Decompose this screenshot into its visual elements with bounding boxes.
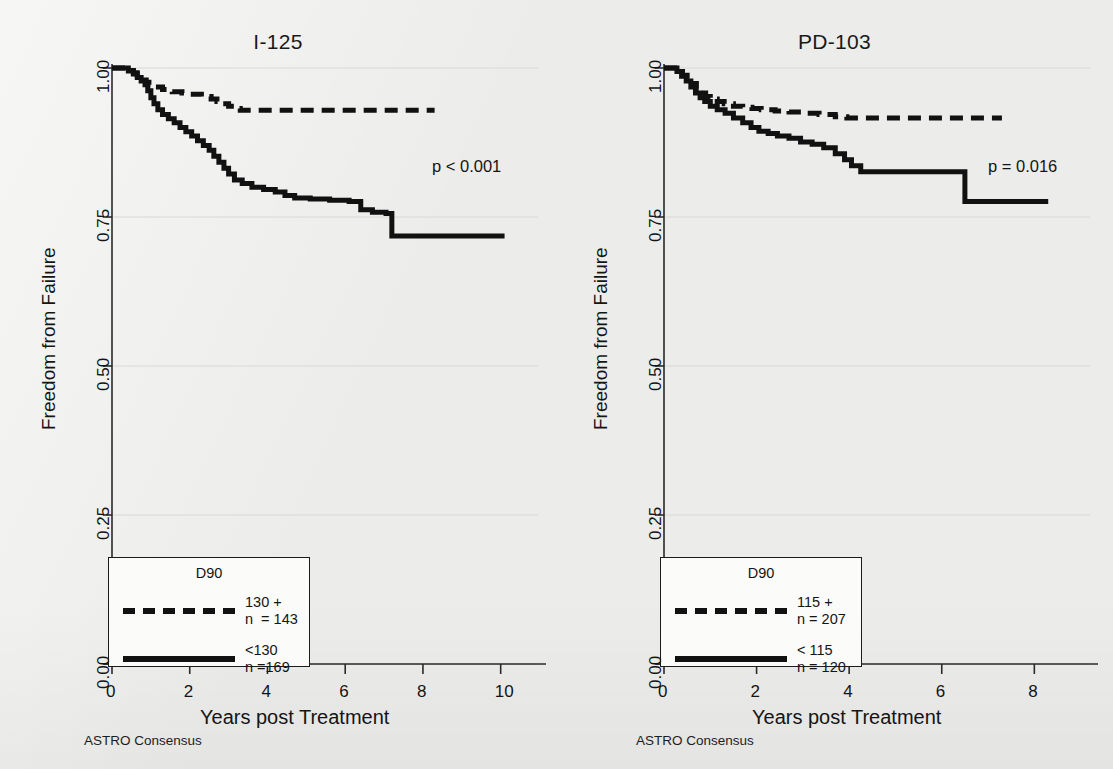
p-value-annotation-right: p = 0.016 — [988, 157, 1057, 176]
legend-swatch-solid-icon — [675, 656, 787, 662]
y-tick-label: 0.25 — [646, 507, 666, 540]
p-value-annotation-left: p < 0.001 — [432, 157, 501, 176]
legend-swatch-solid-icon — [123, 656, 235, 662]
legend-label-dashed-right: 115 + n = 207 — [797, 594, 846, 628]
legend-entry-dashed-left: 130 + n = 143 — [109, 592, 309, 636]
legend-label-solid-right: < 115 n = 120 — [797, 642, 846, 676]
y-axis-label-left: Freedom from Failure — [38, 247, 60, 430]
legend-entry-dashed-right: 115 + n = 207 — [661, 592, 861, 636]
y-tick-label: 0.50 — [646, 358, 666, 391]
footnote-right: ASTRO Consensus — [636, 733, 754, 748]
y-tick-label: 1.00 — [646, 60, 666, 93]
legend-entry-solid-left: <130 n =169 — [109, 640, 309, 684]
x-tick-label: 8 — [417, 682, 426, 702]
legend-label-dashed-left: 130 + n = 143 — [245, 594, 298, 628]
legend-title-left: D90 — [109, 565, 309, 581]
legend-swatch-dashed-icon — [675, 608, 787, 614]
y-tick-label: 0.50 — [94, 358, 114, 391]
curve-solid — [664, 68, 1048, 202]
legend-swatch-dashed-icon — [123, 608, 235, 614]
legend-left: D90 130 + n = 143 <130 n =169 — [108, 557, 310, 667]
legend-entry-solid-right: < 115 n = 120 — [661, 640, 861, 684]
y-tick-label: 1.00 — [94, 60, 114, 93]
x-tick-label: 4 — [261, 682, 270, 702]
x-axis-label-right: Years post Treatment — [752, 706, 941, 729]
y-tick-label: 0.75 — [646, 209, 666, 242]
y-tick-label: 0.25 — [94, 507, 114, 540]
x-tick-label: 2 — [184, 682, 193, 702]
curve-dashed — [664, 68, 1002, 118]
curve-dashed — [112, 68, 435, 110]
footnote-left: ASTRO Consensus — [84, 733, 202, 748]
legend-right: D90 115 + n = 207 < 115 n = 120 — [660, 557, 862, 667]
figure-canvas: I-125 Freedom from Failure Years post Tr… — [0, 0, 1113, 769]
legend-label-solid-left: <130 n =169 — [245, 642, 290, 676]
x-tick-label: 6 — [339, 682, 348, 702]
x-tick-label: 0 — [106, 682, 115, 702]
panel-i125: I-125 Freedom from Failure Years post Tr… — [0, 0, 556, 769]
x-tick-label: 8 — [1028, 682, 1037, 702]
x-tick-label: 10 — [495, 682, 514, 702]
legend-title-right: D90 — [661, 565, 861, 581]
panel-pd103: PD-103 Freedom from Failure Years post T… — [556, 0, 1113, 769]
x-axis-label-left: Years post Treatment — [200, 706, 389, 729]
x-tick-label: 0 — [658, 682, 667, 702]
y-axis-label-right: Freedom from Failure — [590, 247, 612, 430]
y-tick-label: 0.75 — [94, 209, 114, 242]
x-tick-label: 2 — [751, 682, 760, 702]
x-tick-label: 6 — [936, 682, 945, 702]
x-tick-label: 4 — [843, 682, 852, 702]
